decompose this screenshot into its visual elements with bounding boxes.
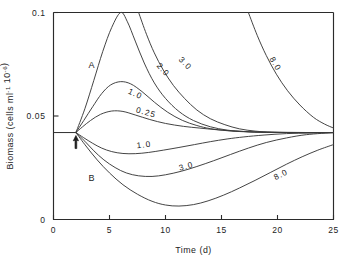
perturbation-arrow-icon (73, 136, 78, 149)
curve-0p25 (76, 111, 334, 133)
y-tick-label-0p05: 0.05 (27, 111, 46, 121)
x-tick-label-0: 0 (51, 225, 56, 235)
curve-8p0a (248, 13, 333, 129)
curve-label-0p25: 0.25 (135, 105, 157, 119)
curve-1p0b (76, 133, 334, 154)
plot-axes (54, 13, 334, 220)
curve-label-3p0b: 3.0 (178, 160, 194, 172)
annotation-set (73, 136, 78, 149)
text-layer: 051015202500.050.1Time (d)Biomass (cells… (0, 8, 339, 255)
curve-label-8p0a: 8.0 (268, 55, 283, 72)
figure-container: 051015202500.050.1Time (d)Biomass (cells… (0, 0, 350, 260)
x-tick-label-25: 25 (328, 225, 339, 235)
region-b-label: B (89, 173, 95, 183)
biomass-time-plot: 051015202500.050.1Time (d)Biomass (cells… (0, 0, 350, 260)
y-tick-label-0p1: 0.1 (32, 8, 46, 18)
x-tick-label-10: 10 (160, 225, 171, 235)
curve-label-1p0a: 1.0 (127, 87, 144, 101)
curve-label-2p0: 2.0 (155, 61, 171, 78)
curve-3p0b (76, 133, 334, 177)
x-axis-title: Time (d) (175, 245, 211, 255)
curve-2p0 (76, 12, 334, 132)
y-tick-label-0: 0 (40, 215, 45, 225)
x-tick-label-20: 20 (272, 225, 283, 235)
axis-frame (54, 13, 334, 220)
curve-label-3p0: 3.0 (177, 55, 194, 72)
y-axis-title: Biomass (cells ml-1 10-6) (0, 62, 15, 169)
curve-label-1p0b: 1.0 (136, 140, 152, 151)
curve-8p0b (76, 133, 334, 206)
region-a-label: A (89, 60, 95, 70)
curve-set (54, 12, 334, 206)
x-tick-label-5: 5 (107, 225, 112, 235)
x-tick-label-15: 15 (216, 225, 227, 235)
